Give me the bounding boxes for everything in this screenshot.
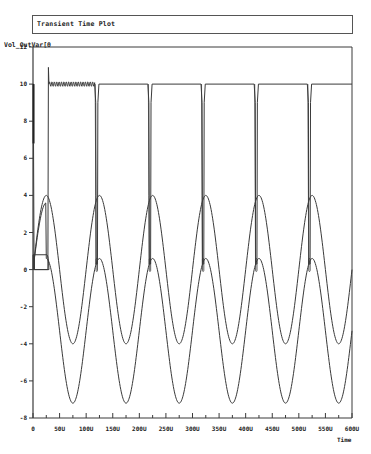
x-tick-label: 450U	[265, 425, 280, 432]
y-tick-label: -6	[20, 377, 28, 384]
dip-cap	[149, 258, 150, 271]
y-tick-label: 4	[23, 191, 27, 198]
x-tick-label: 500U	[292, 425, 307, 432]
x-tick-label: 100U	[79, 425, 94, 432]
dip-cap	[96, 258, 97, 271]
y-tick-label: 6	[23, 154, 27, 161]
y-tick-label: 2	[23, 229, 27, 236]
y-tick-label: 10	[20, 80, 28, 87]
y-tick-label: -2	[20, 303, 28, 310]
dip-cap	[256, 258, 257, 271]
startup-edge	[33, 255, 35, 270]
y-tick-label: 0	[23, 266, 27, 273]
x-tick-label: 0	[31, 425, 35, 432]
y-tick-label: 12	[20, 43, 28, 50]
waveform-traces	[33, 67, 352, 403]
plot-frame	[33, 47, 352, 418]
x-tick-label: 200U	[132, 425, 147, 432]
dip-cap	[202, 258, 203, 271]
x-tick-label: 400U	[238, 425, 253, 432]
x-tick-label: 150U	[106, 425, 121, 432]
x-tick-label: 550U	[318, 425, 333, 432]
dip-cap	[309, 258, 310, 271]
y-tick-label: -4	[20, 340, 28, 347]
y-tick-label: -8	[20, 414, 28, 421]
y-tick-label: 8	[23, 117, 27, 124]
x-tick-label: 300U	[185, 425, 200, 432]
x-tick-label: 250U	[159, 425, 174, 432]
transient-plot: -8-6-4-2024681012050U100U150U200U250U300…	[0, 0, 371, 454]
x-tick-label: 350U	[212, 425, 227, 432]
sine_upper-trace	[34, 195, 352, 343]
pulse-output-trace	[33, 67, 352, 269]
x-tick-label: 600U	[345, 425, 360, 432]
x-tick-label: 50U	[54, 425, 65, 432]
